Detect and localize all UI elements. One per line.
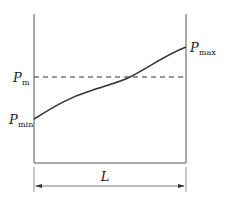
p-m-label: P m xyxy=(12,70,30,87)
arrow-left-icon xyxy=(35,184,42,188)
svg-text:min: min xyxy=(18,120,33,129)
pressure-curve xyxy=(34,47,186,119)
svg-text:P: P xyxy=(189,40,199,55)
arrow-right-icon xyxy=(178,184,185,188)
svg-text:max: max xyxy=(199,48,216,57)
length-label: L xyxy=(100,169,110,184)
p-max-label: P max xyxy=(189,40,216,57)
pressure-diagram: L P max P m P min xyxy=(0,0,225,204)
svg-text:P: P xyxy=(12,70,22,85)
svg-text:m: m xyxy=(22,78,30,87)
svg-text:P: P xyxy=(8,112,18,127)
p-min-label: P min xyxy=(8,112,33,129)
